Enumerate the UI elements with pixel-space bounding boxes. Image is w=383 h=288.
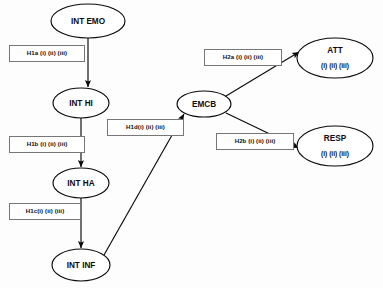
node-label-int-inf: INT INF [67,261,96,270]
node-int-hi[interactable]: INT HI [53,88,109,118]
hypothesis-label-h2b: H2b (i) (ii) (iii) [216,133,294,150]
hypothesis-label-h1a: H1a (i) (ii) (iii) [9,45,85,62]
node-label-int-emo: INT EMO [71,17,106,26]
node-int-emo[interactable]: INT EMO [51,4,125,38]
node-att[interactable]: ATT (i) (ii) (iii) [297,38,373,78]
node-int-inf[interactable]: INT INF [52,249,110,281]
node-label-emcb: EMCB [192,100,216,109]
research-model-diagram: INT EMO INT HI INT HA INT INF EMCB ATT (… [0,0,383,288]
node-label-att: ATT [327,46,342,55]
hypothesis-label-h2a: H2a (i) (ii) (iii) [204,49,282,66]
node-label-int-hi: INT HI [69,99,93,108]
node-label-resp: RESP [324,134,347,143]
node-shape-att [297,38,373,78]
node-emcb[interactable]: EMCB [177,91,231,117]
node-sublabel-resp: (i) (ii) (iii) [321,150,349,158]
node-shape-resp [297,126,373,166]
node-resp[interactable]: RESP (i) (ii) (iii) [297,126,373,166]
hypothesis-label-h1d: H1d(i) (ii) (iii) [107,119,184,136]
hypothesis-label-h1b: H1b (i) (ii) (iii) [9,136,85,153]
node-int-ha[interactable]: INT HA [53,168,109,198]
node-sublabel-att: (i) (ii) (iii) [321,62,349,70]
node-label-int-ha: INT HA [67,179,94,188]
hypothesis-label-h1c: H1c(i) (ii) (iii) [9,203,81,220]
